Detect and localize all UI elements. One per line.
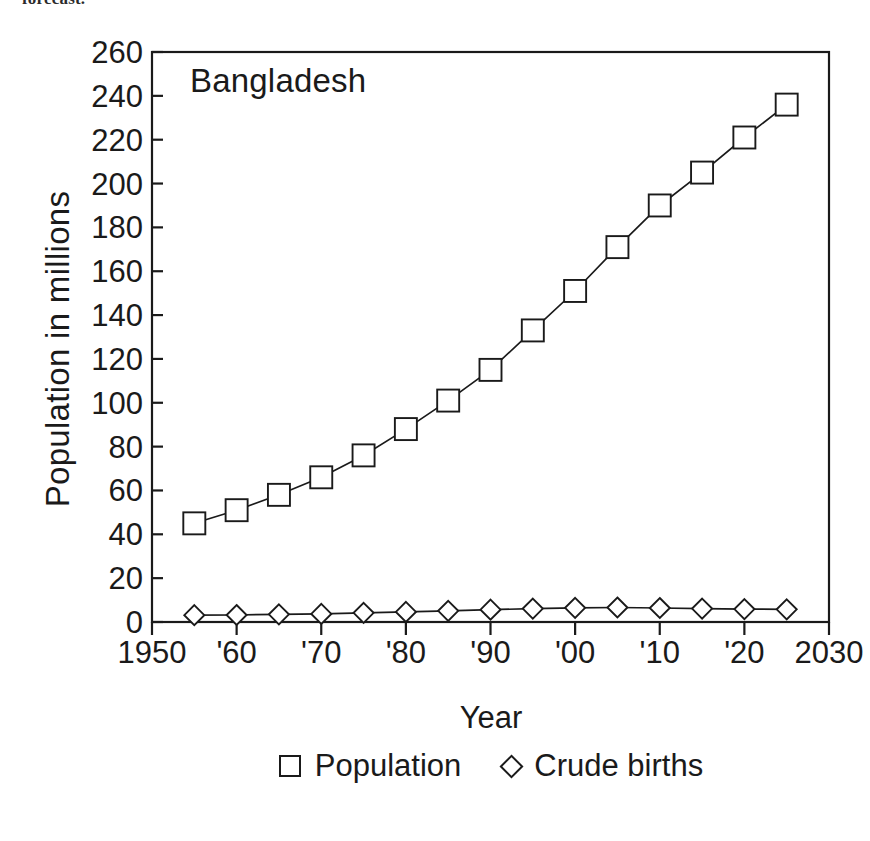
legend-entry-population: Population bbox=[279, 748, 462, 784]
x-tick-label: '10 bbox=[640, 637, 680, 668]
data-point-marker bbox=[606, 236, 628, 258]
data-point-marker bbox=[396, 602, 416, 622]
x-tick-label: '90 bbox=[470, 637, 510, 668]
data-point-marker bbox=[522, 319, 544, 341]
data-point-marker bbox=[649, 194, 671, 216]
data-point-marker bbox=[734, 599, 754, 619]
data-point-marker bbox=[353, 444, 375, 466]
data-point-marker bbox=[691, 162, 713, 184]
y-axis-ticks bbox=[152, 52, 163, 622]
data-point-marker bbox=[692, 599, 712, 619]
x-tick-label: 1950 bbox=[118, 637, 187, 668]
data-point-marker bbox=[310, 466, 332, 488]
data-point-marker bbox=[523, 599, 543, 619]
data-point-marker bbox=[481, 600, 501, 620]
data-point-marker bbox=[650, 598, 670, 618]
x-tick-label: '60 bbox=[216, 637, 256, 668]
x-tick-label: '80 bbox=[386, 637, 426, 668]
legend-label-population: Population bbox=[315, 748, 462, 784]
data-point-marker bbox=[564, 280, 586, 302]
data-point-marker bbox=[607, 598, 627, 618]
chart-legend: Population Crude births bbox=[152, 748, 830, 784]
x-tick-label: 2030 bbox=[795, 637, 864, 668]
x-tick-label: '00 bbox=[555, 637, 595, 668]
legend-label-crude-births: Crude births bbox=[534, 748, 703, 784]
data-point-marker bbox=[733, 127, 755, 149]
data-point-marker bbox=[565, 598, 585, 618]
data-series-layer bbox=[183, 94, 797, 626]
data-point-marker bbox=[438, 601, 458, 621]
x-axis-ticks bbox=[152, 622, 829, 635]
axes-box bbox=[152, 52, 829, 622]
data-point-marker bbox=[183, 512, 205, 534]
axes-frame bbox=[152, 52, 829, 622]
population-chart-figure: forecast. Population in millions 0204060… bbox=[0, 0, 870, 841]
data-point-marker bbox=[777, 599, 797, 619]
x-axis-tick-labels: 1950'60'70'80'90'00'10'202030 bbox=[0, 637, 870, 687]
data-point-marker bbox=[776, 94, 798, 116]
x-tick-label: '70 bbox=[301, 637, 341, 668]
x-axis-title: Year bbox=[152, 700, 830, 736]
data-point-marker bbox=[226, 499, 248, 521]
data-point-marker bbox=[437, 390, 459, 412]
diamond-marker-icon bbox=[500, 754, 524, 778]
data-point-marker bbox=[395, 418, 417, 440]
data-point-marker bbox=[268, 484, 290, 506]
chart-title: Bangladesh bbox=[190, 62, 366, 100]
square-marker-icon bbox=[279, 755, 301, 777]
x-tick-label: '20 bbox=[724, 637, 764, 668]
data-point-marker bbox=[354, 603, 374, 623]
legend-entry-crude-births: Crude births bbox=[503, 748, 703, 784]
data-point-marker bbox=[480, 359, 502, 381]
